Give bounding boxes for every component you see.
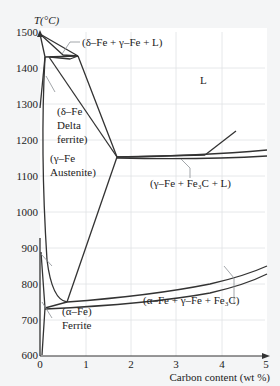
label-gamma-2: Austenite) xyxy=(50,166,96,179)
y-tick: 1000 xyxy=(16,206,39,218)
y-tick: 600 xyxy=(22,349,39,361)
y-tick: 1300 xyxy=(16,98,39,110)
label-liquid: L xyxy=(200,74,207,86)
y-tick: 1400 xyxy=(16,62,39,74)
x-tick: 0 xyxy=(37,358,43,370)
x-tick: 3 xyxy=(173,358,179,370)
x-tick: 5 xyxy=(263,358,269,370)
x-tick: 1 xyxy=(83,358,89,370)
x-axis-title: Carbon content (wt %) xyxy=(170,371,271,384)
label-gamma-1: (γ–Fe xyxy=(50,152,75,165)
y-tick: 800 xyxy=(22,278,39,290)
x-tick: 2 xyxy=(128,358,134,370)
label-delta-2: Delta xyxy=(57,119,81,131)
y-tick: 1500 xyxy=(16,26,39,38)
label-alpha-2: Ferrite xyxy=(62,319,91,331)
y-axis-title: T(°C) xyxy=(34,14,60,27)
y-tick: 1200 xyxy=(16,134,39,146)
y-tick-labels: 1500 1400 1300 1200 1100 1000 900 800 70… xyxy=(16,26,39,361)
x-tick-labels: 0 1 2 3 4 5 xyxy=(37,358,269,370)
phase-diagram: 1500 1400 1300 1200 1100 1000 900 800 70… xyxy=(0,0,280,386)
label-alpha-gamma-fe3c: (α–Fe + γ–Fe + Fe₃C) xyxy=(143,294,240,307)
x-tick: 4 xyxy=(219,358,225,370)
y-tick: 1100 xyxy=(16,170,38,182)
label-delta-1: (δ–Fe xyxy=(57,105,82,118)
label-alpha-1: (α–Fe) xyxy=(62,305,92,318)
y-tick: 900 xyxy=(22,242,39,254)
label-delta-gamma-liquid: (δ–Fe + γ–Fe + L) xyxy=(82,36,163,49)
y-tick: 700 xyxy=(22,314,39,326)
label-delta-3: ferrite) xyxy=(57,133,88,146)
label-gamma-fe3c-liquid: (γ–Fe + Fe₃C + L) xyxy=(150,177,231,190)
